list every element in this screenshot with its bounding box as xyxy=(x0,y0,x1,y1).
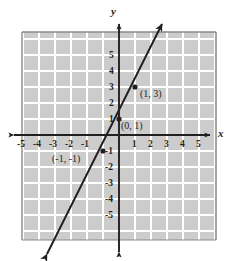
x-tick-3: 3 xyxy=(164,140,169,150)
x-tick--2: -2 xyxy=(65,140,73,150)
x-tick--5: -5 xyxy=(17,140,25,150)
x-tick-1: 1 xyxy=(132,140,137,150)
annotation-1-3: (1, 3) xyxy=(140,89,162,99)
y-tick-2: 2 xyxy=(109,99,114,109)
x-tick--1: -1 xyxy=(81,140,89,150)
y-tick--1: -1 xyxy=(105,147,113,157)
coordinate-plane xyxy=(0,0,237,261)
y-tick-1: 1 xyxy=(109,115,114,125)
y-tick--5: -5 xyxy=(105,211,113,221)
x-tick--3: -3 xyxy=(49,140,57,150)
x-axis-label: x xyxy=(218,128,224,139)
graph-figure: y x -5 -4 -3 -2 -1 1 2 3 4 5 5 4 3 2 1 -… xyxy=(0,0,237,261)
y-tick-3: 3 xyxy=(109,83,114,93)
y-tick--3: -3 xyxy=(105,179,113,189)
y-tick--2: -2 xyxy=(105,163,113,173)
y-tick-5: 5 xyxy=(109,51,114,61)
annotation-0-1: (0, 1) xyxy=(121,121,143,131)
y-tick--4: -4 xyxy=(105,195,113,205)
x-tick-4: 4 xyxy=(180,140,185,150)
x-tick--4: -4 xyxy=(33,140,41,150)
y-tick-4: 4 xyxy=(109,67,114,77)
x-tick-5: 5 xyxy=(196,140,201,150)
x-tick-2: 2 xyxy=(148,140,153,150)
annotation-neg1-neg1: (-1, -1) xyxy=(52,154,80,164)
data-point-1-3 xyxy=(132,84,137,89)
y-axis-label: y xyxy=(111,6,116,17)
